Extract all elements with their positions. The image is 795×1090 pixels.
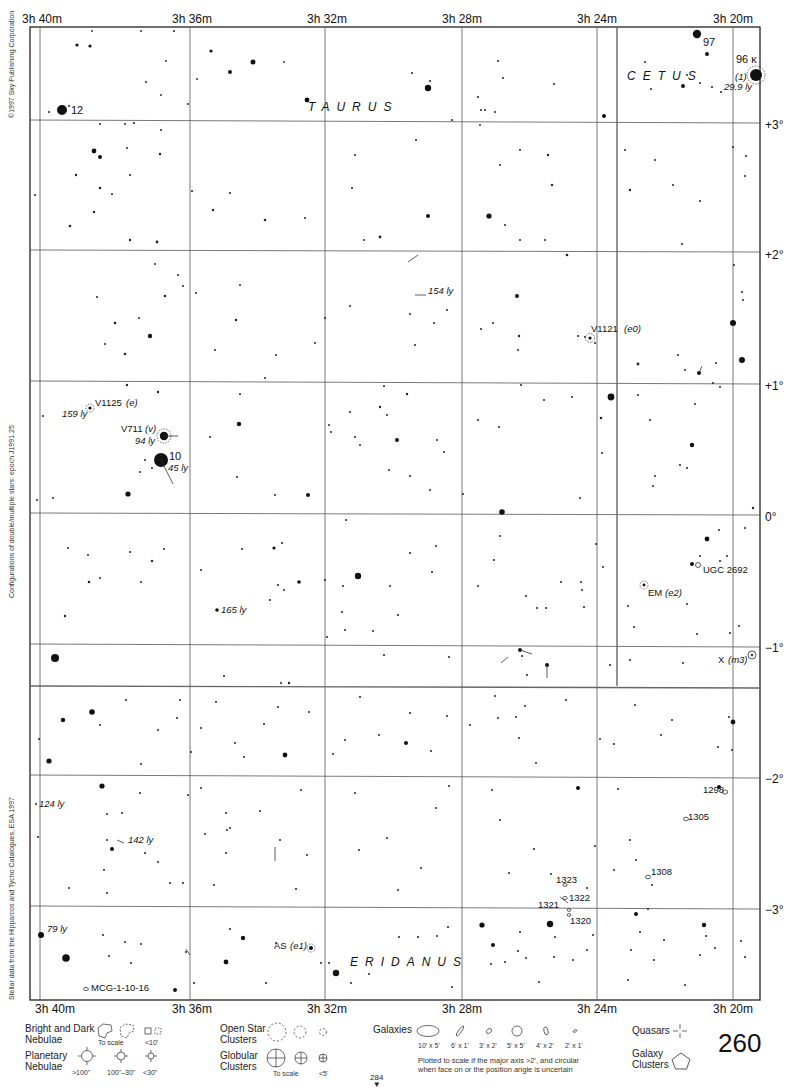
legend-globular-clusters: Globular Clusters bbox=[220, 1050, 258, 1072]
quasar-icon bbox=[672, 1023, 688, 1039]
variable-star-type: (e) bbox=[126, 398, 138, 408]
distance-label: 165 ly bbox=[221, 605, 246, 615]
star-label: 12 bbox=[71, 105, 83, 116]
proper-motion-vectors bbox=[117, 255, 702, 955]
dec-label: −3° bbox=[765, 903, 783, 917]
dec-label: +1° bbox=[765, 379, 783, 393]
galaxy-cluster-pentagon-icon bbox=[671, 1052, 691, 1070]
legend-to-scale: To scale bbox=[273, 1070, 299, 1077]
distance-label: 154 ly bbox=[428, 286, 453, 296]
dec-label: −1° bbox=[765, 641, 783, 655]
variable-star-label: V1121 bbox=[591, 324, 618, 334]
galaxy-label: 1322 bbox=[569, 893, 590, 903]
planetary-nebula-symbol bbox=[748, 651, 756, 659]
dec-label: +2° bbox=[765, 248, 783, 262]
stars bbox=[38, 30, 762, 992]
copyright-text: ©1997 Sky Publishing Corporation bbox=[8, 11, 15, 118]
ra-label-bottom: 3h 24m bbox=[577, 1002, 617, 1016]
star-label: 96 κ bbox=[736, 54, 757, 65]
galaxy-symbols-icon bbox=[415, 1022, 590, 1040]
legend-galaxy-size: 6' x 1' bbox=[451, 1042, 469, 1049]
ra-label-bottom: 3h 28m bbox=[442, 1002, 482, 1016]
legend-galaxy-size: 4' x 2' bbox=[536, 1042, 554, 1049]
distance-label: 29.9 ly bbox=[724, 82, 752, 92]
legend-lt5: <5' bbox=[319, 1070, 328, 1077]
legend-pn-size: <30" bbox=[143, 1069, 157, 1076]
variable-star-type: (e1) bbox=[290, 941, 307, 951]
legend-pn-size: >100" bbox=[72, 1069, 90, 1076]
ra-label-bottom: 3h 20m bbox=[713, 1002, 753, 1016]
map-legend: Bright and Dark Nebulae To scale <10' Pl… bbox=[0, 1018, 795, 1090]
ra-label-bottom: 3h 36m bbox=[172, 1002, 212, 1016]
distance-label: 124 ly bbox=[39, 799, 64, 809]
galaxy-label: 1298 bbox=[703, 785, 724, 795]
variable-star-rings bbox=[86, 66, 765, 952]
variable-star-type: (e0) bbox=[624, 324, 641, 334]
star-label: 97 bbox=[703, 37, 715, 48]
legend-galaxy-note: Plotted to scale if the major axis >2', … bbox=[418, 1056, 579, 1074]
legend-bright-dark-nebulae: Bright and Dark Nebulae bbox=[25, 1023, 94, 1045]
data-source-note: Stellar data from the Hipparcos and Tych… bbox=[8, 797, 15, 1000]
galaxy-label: MCG-1-10-16 bbox=[91, 983, 149, 993]
planetary-nebula-icon bbox=[75, 1046, 165, 1068]
galaxy-label: UGC 2692 bbox=[703, 565, 748, 575]
globular-cluster-icon bbox=[264, 1046, 334, 1070]
legend-galaxy-clusters: Galaxy Clusters bbox=[632, 1048, 669, 1070]
galaxy-label: 1305 bbox=[688, 812, 709, 822]
dec-label: 0° bbox=[765, 510, 776, 524]
variable-star-label: V1125 bbox=[95, 398, 122, 408]
ra-label-top: 3h 40m bbox=[22, 12, 62, 26]
legend-galaxies: Galaxies bbox=[373, 1024, 412, 1035]
star-chart: 3h 40m 3h 36m 3h 32m 3h 28m 3h 24m 3h 20… bbox=[0, 0, 795, 1090]
variable-star-type: (m3) bbox=[728, 655, 748, 665]
legend-open-star-clusters: Open Star Clusters bbox=[220, 1023, 266, 1045]
epoch-note: Configurations of double/multiple stars:… bbox=[8, 425, 15, 598]
legend-planetary-nebulae: Planetary Nebulae bbox=[25, 1050, 67, 1072]
dec-label: −2° bbox=[765, 772, 783, 786]
dec-gridlines bbox=[30, 120, 760, 909]
ra-label-bottom: 3h 40m bbox=[35, 1002, 75, 1016]
variable-star-label: AS bbox=[274, 941, 287, 951]
ra-label-top: 3h 32m bbox=[307, 12, 347, 26]
chart-page-number: 260 bbox=[718, 1028, 761, 1059]
legend-galaxy-size: 10' x 5' bbox=[418, 1042, 440, 1049]
ra-label-top: 3h 20m bbox=[713, 12, 753, 26]
legend-pn-size: 100"–30" bbox=[107, 1069, 135, 1076]
variable-star-label: EM bbox=[648, 588, 662, 598]
legend-quasars: Quasars bbox=[632, 1025, 670, 1036]
distance-label: 79 ly bbox=[47, 924, 67, 934]
galaxy-label: 1323 bbox=[556, 875, 577, 885]
variable-star-label: X bbox=[718, 655, 724, 665]
variable-star-type: (v) bbox=[145, 424, 156, 434]
legend-galaxy-size: 3' x 2' bbox=[479, 1042, 497, 1049]
ra-label-top: 3h 24m bbox=[577, 12, 617, 26]
legend-galaxy-size: 2' x 1' bbox=[565, 1042, 583, 1049]
down-arrow-icon: ▼ bbox=[370, 1082, 383, 1088]
distance-label: 159 ly bbox=[62, 409, 87, 419]
legend-galaxy-size: 5' x 5' bbox=[507, 1042, 525, 1049]
ra-label-bottom: 3h 32m bbox=[307, 1002, 347, 1016]
ra-label-top: 3h 28m bbox=[442, 12, 482, 26]
constellation-eridanus: ERIDANUS bbox=[350, 955, 468, 969]
variable-star-label: V711 bbox=[121, 424, 142, 434]
open-cluster-icon bbox=[266, 1020, 336, 1046]
galaxy-label: 1321 bbox=[538, 900, 559, 910]
galaxy-label: 1320 bbox=[570, 916, 591, 926]
distance-label: 142 ly bbox=[128, 835, 153, 845]
chart-plot-area bbox=[0, 0, 795, 1020]
distance-label: 45 ly bbox=[168, 463, 188, 473]
constellation-taurus: TAURUS bbox=[308, 100, 398, 114]
legend-lt10: <10' bbox=[145, 1039, 158, 1046]
legend-to-scale: To scale bbox=[98, 1039, 124, 1046]
star-label: 10 bbox=[169, 451, 181, 462]
constellation-cetus: CETUS bbox=[627, 69, 703, 83]
ra-label-top: 3h 36m bbox=[172, 12, 212, 26]
galaxy-label: 1308 bbox=[651, 867, 672, 877]
dec-label: +3° bbox=[765, 118, 783, 132]
distance-label: 94 ly bbox=[135, 436, 155, 446]
variable-star-type: (e2) bbox=[665, 588, 682, 598]
adjacent-chart-link[interactable]: 284 ▼ bbox=[370, 1073, 383, 1088]
